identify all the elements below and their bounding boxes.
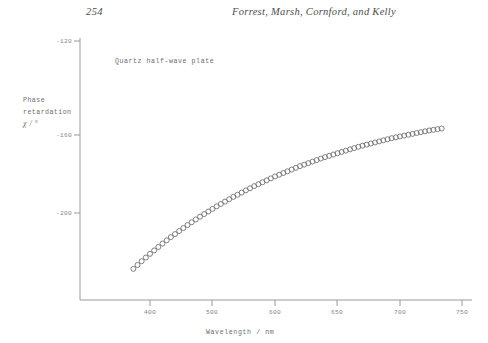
plot-canvas xyxy=(0,26,488,343)
data-point xyxy=(152,248,157,253)
plot-annotation: Quartz half-wave plate xyxy=(115,58,214,65)
y-axis-title-symbol: χ / ° xyxy=(23,118,71,130)
x-tick-label: 600 xyxy=(269,309,281,316)
x-axis-title: Wavelength / nm xyxy=(206,329,274,336)
y-axis-title: Phase retardation χ / ° xyxy=(23,95,71,130)
x-tick-label: 700 xyxy=(394,309,406,316)
data-point xyxy=(148,251,153,256)
x-tick-label: 650 xyxy=(331,309,343,316)
x-tick-label: 750 xyxy=(456,309,468,316)
data-series-quartz-half-wave-plate xyxy=(131,126,444,271)
data-point xyxy=(143,255,148,260)
y-axis-ticks xyxy=(74,41,80,213)
x-axis-ticks xyxy=(150,300,462,306)
data-point xyxy=(135,263,140,268)
y-axis-title-line1: Phase xyxy=(23,95,71,107)
page-number: 254 xyxy=(86,6,103,17)
y-tick-label: -160 xyxy=(46,132,72,139)
page-header: 254 Forrest, Marsh, Cornford, and Kelly xyxy=(0,0,488,26)
x-tick-label: 500 xyxy=(206,309,218,316)
data-point xyxy=(139,259,144,264)
x-tick-label: 400 xyxy=(144,309,156,316)
y-tick-label: -120 xyxy=(46,38,72,45)
running-head: Forrest, Marsh, Cornford, and Kelly xyxy=(232,6,396,17)
y-tick-label: -200 xyxy=(46,210,72,217)
figure-container: Quartz half-wave plate Phase retardation… xyxy=(0,26,488,343)
data-point xyxy=(156,244,161,249)
y-axis-title-line2: retardation xyxy=(23,107,71,119)
data-point xyxy=(131,266,136,271)
